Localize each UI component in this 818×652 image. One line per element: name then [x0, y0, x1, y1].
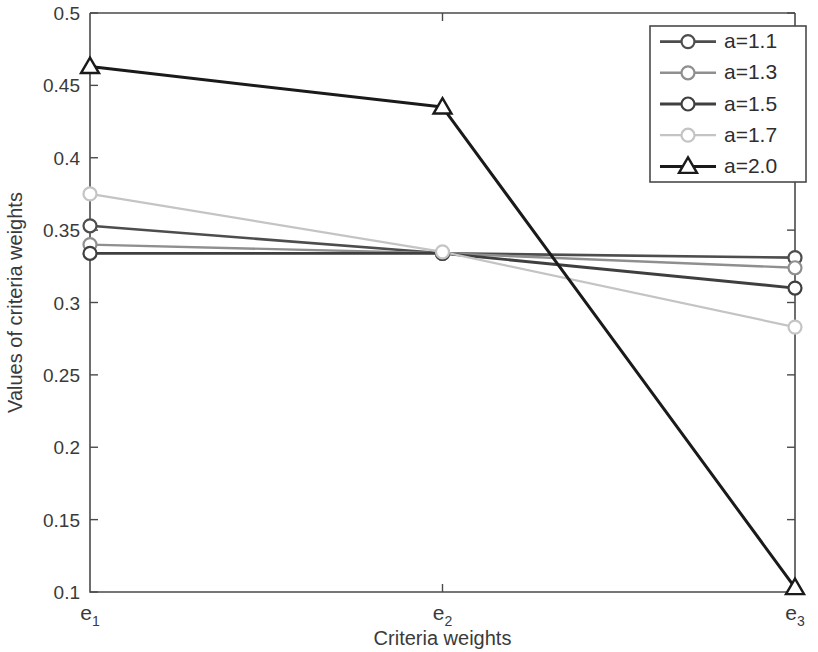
- x-tick-label: e2: [433, 601, 453, 629]
- legend-label-2: a=1.5: [724, 92, 777, 115]
- line-chart-plot: 0.10.150.20.250.30.350.40.450.5e1e2e3 a=…: [0, 0, 818, 652]
- data-marker-circle: [84, 187, 97, 200]
- data-marker-triangle: [81, 58, 99, 73]
- data-marker-circle: [682, 129, 695, 142]
- data-marker-circle: [789, 261, 802, 274]
- data-marker-circle: [84, 247, 97, 260]
- legend-group: a=1.1a=1.3a=1.5a=1.7a=2.0: [650, 26, 806, 182]
- data-marker-circle: [682, 35, 695, 48]
- legend-label-3: a=1.7: [724, 123, 777, 146]
- data-marker-circle: [682, 98, 695, 111]
- y-tick-label: 0.5: [54, 3, 80, 24]
- chart-figure: 0.10.150.20.250.30.350.40.450.5e1e2e3 a=…: [0, 0, 818, 652]
- y-axis-title: Values of criteria weights: [4, 192, 26, 413]
- y-tick-label: 0.2: [54, 437, 80, 458]
- legend-label-4: a=2.0: [724, 154, 777, 177]
- y-tick-label: 0.15: [43, 510, 80, 531]
- data-marker-circle: [84, 219, 97, 232]
- y-tick-label: 0.45: [43, 75, 80, 96]
- y-tick-label: 0.25: [43, 365, 80, 386]
- data-marker-circle: [789, 282, 802, 295]
- data-marker-circle: [682, 66, 695, 79]
- data-marker-circle: [789, 321, 802, 334]
- y-tick-label: 0.4: [54, 148, 81, 169]
- x-tick-label: e3: [785, 601, 805, 629]
- data-marker-circle: [436, 245, 449, 258]
- legend-label-1: a=1.3: [724, 60, 777, 83]
- x-tick-label: e1: [80, 601, 100, 629]
- legend-label-0: a=1.1: [724, 29, 777, 52]
- axis-labels-group: Criteria weightsValues of criteria weigh…: [4, 192, 511, 649]
- y-tick-label: 0.1: [54, 582, 80, 603]
- y-tick-label: 0.3: [54, 293, 80, 314]
- y-tick-label: 0.35: [43, 220, 80, 241]
- x-axis-title: Criteria weights: [374, 627, 512, 649]
